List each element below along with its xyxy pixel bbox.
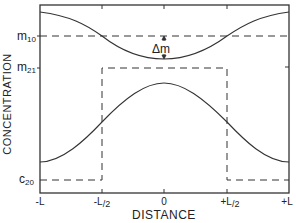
lower-curve: [40, 83, 289, 162]
x-tick-neg-half-L: -L/2: [94, 196, 110, 209]
y-tick-m21: m21: [17, 60, 36, 75]
step-profile: [40, 68, 289, 180]
x-tick-neg-L: -L: [36, 196, 45, 207]
x-axis-title: DISTANCE: [132, 208, 196, 222]
x-tick-zero: 0: [161, 196, 167, 207]
y-tick-c20: c20: [19, 172, 34, 187]
x-tick-pos-half-L: +L/2: [221, 196, 240, 209]
chart: Δm m10 m21 c20 -L -L/2 0 +L/2 +L DISTANC…: [0, 0, 296, 223]
y-tick-m10: m10: [17, 29, 36, 44]
y-axis-title: CONCENTRATION: [1, 53, 13, 155]
delta-m-label: Δm: [152, 42, 170, 56]
x-tick-pos-L: +L: [281, 196, 293, 207]
plot-frame: [40, 5, 289, 193]
